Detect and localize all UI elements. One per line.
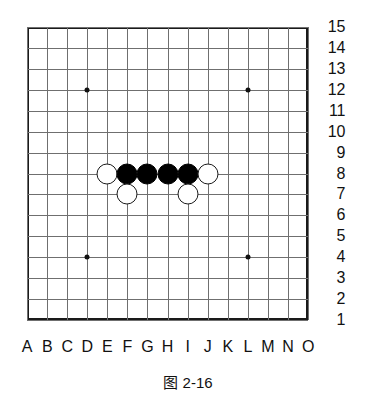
grid-line-horizontal bbox=[27, 320, 308, 321]
grid-line-horizontal bbox=[27, 236, 308, 237]
row-label-3: 3 bbox=[319, 270, 345, 286]
grid-line-vertical bbox=[268, 27, 269, 320]
row-label-9: 9 bbox=[319, 145, 345, 161]
black-stone[interactable] bbox=[137, 163, 158, 184]
grid-line-horizontal bbox=[27, 278, 308, 279]
column-label-L: L bbox=[243, 339, 252, 355]
grid-line-horizontal bbox=[27, 257, 308, 258]
grid-line-vertical bbox=[288, 27, 289, 320]
star-point bbox=[245, 255, 250, 260]
row-label-1: 1 bbox=[319, 312, 345, 328]
white-stone[interactable] bbox=[177, 184, 198, 205]
star-point bbox=[85, 255, 90, 260]
star-point bbox=[85, 87, 90, 92]
white-stone[interactable] bbox=[197, 163, 218, 184]
row-label-15: 15 bbox=[319, 19, 345, 35]
row-label-14: 14 bbox=[319, 40, 345, 56]
gomoku-board[interactable] bbox=[27, 27, 308, 320]
figure-caption: 图 2-16 bbox=[0, 375, 376, 390]
column-label-O: O bbox=[302, 339, 314, 355]
column-label-M: M bbox=[261, 339, 274, 355]
column-label-E: E bbox=[102, 339, 112, 355]
row-label-8: 8 bbox=[319, 166, 345, 182]
row-label-6: 6 bbox=[319, 207, 345, 223]
black-stone[interactable] bbox=[117, 163, 138, 184]
grid-line-horizontal bbox=[27, 215, 308, 216]
column-label-D: D bbox=[82, 339, 93, 355]
column-label-H: H bbox=[162, 339, 173, 355]
row-label-10: 10 bbox=[319, 124, 345, 140]
grid-line-vertical bbox=[248, 27, 249, 320]
grid-line-vertical bbox=[228, 27, 229, 320]
black-stone[interactable] bbox=[157, 163, 178, 184]
row-label-2: 2 bbox=[319, 291, 345, 307]
white-stone[interactable] bbox=[97, 163, 118, 184]
grid-line-vertical bbox=[308, 27, 309, 320]
row-label-12: 12 bbox=[319, 82, 345, 98]
row-label-4: 4 bbox=[319, 249, 345, 265]
row-label-7: 7 bbox=[319, 186, 345, 202]
row-label-11: 11 bbox=[319, 103, 345, 119]
column-label-F: F bbox=[123, 339, 132, 355]
gomoku-figure: 151413121110987654321 ABCDEFGHIJKLMNO 图 … bbox=[0, 0, 376, 406]
star-point bbox=[245, 87, 250, 92]
white-stone[interactable] bbox=[117, 184, 138, 205]
column-label-G: G bbox=[141, 339, 153, 355]
column-label-J: J bbox=[204, 339, 212, 355]
row-label-13: 13 bbox=[319, 61, 345, 77]
column-label-A: A bbox=[22, 339, 32, 355]
column-label-B: B bbox=[42, 339, 52, 355]
row-label-5: 5 bbox=[319, 228, 345, 244]
grid-line-horizontal bbox=[27, 194, 308, 195]
grid-line-horizontal bbox=[27, 299, 308, 300]
black-stone[interactable] bbox=[177, 163, 198, 184]
column-label-C: C bbox=[62, 339, 73, 355]
column-label-I: I bbox=[185, 339, 189, 355]
column-label-N: N bbox=[282, 339, 293, 355]
column-label-K: K bbox=[223, 339, 233, 355]
